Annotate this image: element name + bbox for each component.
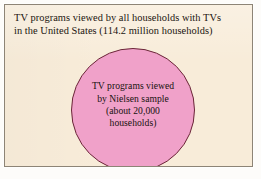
sample-set-circle: TV programs viewed by Nielsen sample (ab… <box>71 48 195 167</box>
population-set-rectangle: TV programs viewed by all households wit… <box>4 4 253 167</box>
population-label-line-2: in the United States (114.2 million hous… <box>14 24 250 37</box>
population-label-line-1: TV programs viewed by all households wit… <box>14 11 250 24</box>
sample-label-line-4: households) <box>72 117 194 129</box>
population-set-label: TV programs viewed by all households wit… <box>14 11 250 37</box>
sample-label-line-3: (about 20,000 <box>72 105 194 117</box>
sample-set-label: TV programs viewed by Nielsen sample (ab… <box>72 80 194 130</box>
sample-label-line-1: TV programs viewed <box>72 80 194 92</box>
sample-label-line-2: by Nielsen sample <box>72 93 194 105</box>
nested-set-diagram: TV programs viewed by all households wit… <box>0 0 261 179</box>
